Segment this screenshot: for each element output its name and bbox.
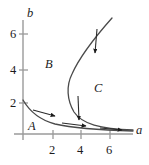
parabola-curve [68, 18, 133, 130]
arrow-down-upper [95, 29, 97, 53]
region-label-a: A [28, 120, 36, 133]
region-label-b: B [45, 58, 53, 71]
plot-canvas [0, 0, 149, 165]
x-axis-label: a [136, 124, 142, 137]
y-tick-label-4: 4 [10, 64, 16, 77]
y-tick-label-2: 2 [10, 97, 16, 110]
region-label-c: C [94, 82, 102, 95]
y-axis-label: b [27, 7, 33, 20]
plot-figure: b a 2 4 6 2 4 6 A B C [0, 0, 149, 165]
direction-arrows [33, 29, 122, 130]
x-tick-label-6: 6 [106, 144, 112, 157]
y-tick-label-6: 6 [10, 28, 16, 41]
curves [23, 18, 133, 131]
x-tick-label-4: 4 [77, 144, 83, 157]
x-tick-label-2: 2 [49, 144, 55, 157]
